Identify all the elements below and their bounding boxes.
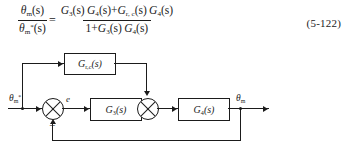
feedforward-drop-wire — [146, 63, 147, 94]
block-plant-argument: (s) — [204, 104, 215, 115]
equation-number: (5-122) — [307, 17, 341, 29]
rhs-fraction: G3(s) G4(s)+Gr, c(s) G4(s) 1+G3(s) G4(s) — [58, 4, 176, 37]
feedforward-sum-arrow — [144, 91, 150, 96]
error-arrow — [84, 106, 89, 112]
equation-row: θm(s) θm*(s) = G3(s) G4(s)+Gr, c(s) G4(s… — [0, 4, 353, 48]
block-controller-symbol: G — [106, 104, 113, 115]
block-controller-label: G3(s) — [106, 104, 127, 116]
lhs-denominator: θm*(s) — [18, 20, 47, 37]
block-controller-argument: (s) — [116, 104, 127, 115]
g4b-argument: (s) — [161, 4, 173, 16]
g3-symbol: G — [61, 4, 69, 16]
den-g4-symbol: G — [124, 22, 132, 34]
rhs-denominator: 1+G3(s) G4(s) — [83, 20, 152, 37]
den-g3-symbol: G — [98, 22, 106, 34]
feedforward-input-arrow — [58, 61, 63, 67]
figure-page: θm(s) θm*(s) = G3(s) G4(s)+Gr, c(s) G4(s… — [0, 0, 353, 156]
output-label: θm — [236, 93, 245, 104]
theta-argument: (s) — [32, 4, 44, 16]
summing-junction-feedforward[interactable] — [137, 98, 159, 120]
input-theta-superscript: * — [18, 94, 21, 100]
g4-argument: (s) — [99, 4, 111, 16]
block-feedforward-label: Gr,c(s) — [78, 58, 102, 70]
block-controller[interactable]: G3(s) — [90, 98, 142, 121]
feedforward-riser-wire — [22, 63, 23, 108]
input-arrow — [36, 106, 41, 112]
feedback-drop-wire — [240, 108, 241, 141]
den-g4-argument: (s) — [136, 22, 148, 34]
rhs-numerator: G3(s) G4(s)+Gr, c(s) G4(s) — [58, 4, 176, 20]
error-label: e — [66, 94, 70, 104]
grc-symbol: G — [118, 4, 126, 16]
equals-sign: = — [49, 13, 56, 28]
grc-subscript: r, c — [126, 10, 135, 18]
summing-junction-error[interactable] — [42, 98, 64, 120]
output-theta-subscript: m — [241, 98, 246, 104]
block-diagram: θm* Gr,c(s) − e G3(s) — [0, 50, 353, 156]
feedback-riser-wire — [52, 124, 53, 141]
grc-argument: (s) — [135, 4, 147, 16]
g3-argument: (s) — [73, 4, 85, 16]
input-label: θm* — [9, 93, 21, 104]
feedback-return-wire — [52, 140, 241, 141]
theta-ref-argument: (s) — [34, 22, 46, 34]
lhs-fraction: θm(s) θm*(s) — [18, 4, 47, 37]
block-feedforward-argument: (s) — [91, 58, 102, 69]
lhs-numerator: θm(s) — [20, 4, 45, 20]
block-plant[interactable]: G4(s) — [178, 98, 230, 121]
plant-input-arrow — [172, 106, 177, 112]
block-plant-label: G4(s) — [194, 104, 215, 116]
block-plant-symbol: G — [194, 104, 201, 115]
equation-body: θm(s) θm*(s) = G3(s) G4(s)+Gr, c(s) G4(s… — [18, 4, 176, 37]
feedforward-output-wire — [114, 63, 147, 64]
output-arrow — [263, 106, 268, 112]
feedback-arrow — [50, 119, 56, 124]
block-feedforward[interactable]: Gr,c(s) — [64, 53, 116, 75]
den-g3-argument: (s) — [110, 22, 122, 34]
